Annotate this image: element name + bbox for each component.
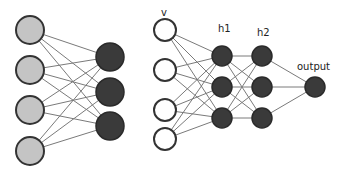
hidden1-node [212, 108, 232, 128]
visible-node [154, 59, 176, 81]
label-visible-layer: v [161, 7, 167, 18]
visible-node [154, 19, 176, 41]
left-output-node [96, 43, 124, 71]
left-output-node [96, 112, 124, 140]
left-input-node [16, 16, 44, 44]
hidden2-node [252, 77, 272, 97]
left-input-node [16, 96, 44, 124]
label-hidden-layer-1: h1 [218, 23, 231, 34]
hidden1-node [212, 46, 232, 66]
hidden2-node [252, 46, 272, 66]
visible-node [154, 99, 176, 121]
label-hidden-layer-2: h2 [257, 27, 270, 38]
left-input-node [16, 56, 44, 84]
neural-network-diagram: v h1 h2 output [0, 0, 353, 170]
visible-node [154, 128, 176, 150]
hidden2-node [252, 108, 272, 128]
label-output-layer: output [297, 61, 330, 72]
output-node [305, 77, 325, 97]
hidden1-node [212, 77, 232, 97]
network-nodes [16, 16, 325, 165]
left-input-node [16, 137, 44, 165]
left-output-node [96, 78, 124, 106]
